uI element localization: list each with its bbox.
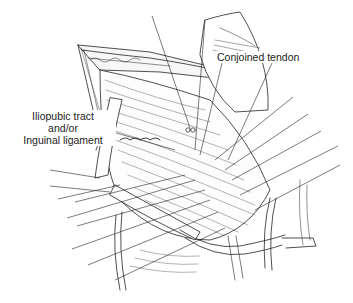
anatomy-illustration: Conjoined tendon Iliopubic tract and/or …	[0, 0, 353, 303]
label-conjoined-tendon: Conjoined tendon	[216, 51, 300, 63]
illustration-drawing	[0, 0, 353, 303]
label-iliopubic-line1: Iliopubic tract	[10, 110, 116, 122]
label-iliopubic-line2: and/or	[10, 122, 116, 134]
label-iliopubic-tract: Iliopubic tract and/or Inguinal ligament	[10, 110, 116, 146]
label-iliopubic-line3: Inguinal ligament	[10, 134, 116, 146]
